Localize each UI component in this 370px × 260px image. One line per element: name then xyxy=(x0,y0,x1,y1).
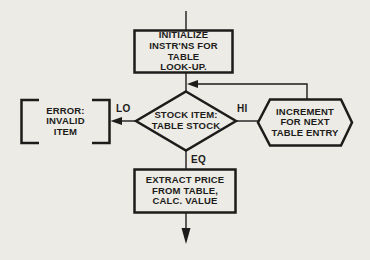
error-box-label: ERROR: INVALID ITEM xyxy=(21,99,110,144)
initialize-box-label: INITIALIZE INSTR'NS FOR TABLE LOOK-UP. xyxy=(134,30,233,73)
flowchart-figure: INITIALIZE INSTR'NS FOR TABLE LOOK-UP. S… xyxy=(0,0,370,260)
feedback-arrowhead-icon xyxy=(187,80,198,88)
increment-hexagon-label: INCREMENT FOR NEXT TABLE ENTRY xyxy=(258,99,352,146)
branch-label-lo: LO xyxy=(116,103,131,115)
lo-arrowhead-icon xyxy=(111,117,123,125)
branch-label-hi: HI xyxy=(237,103,248,115)
branch-label-eq: EQ xyxy=(191,154,206,166)
extract-box-label: EXTRACT PRICE FROM TABLE, CALC. VALUE xyxy=(134,169,236,213)
decision-diamond-label: STOCK ITEM: TABLE STOCK xyxy=(136,93,236,149)
exit-arrowhead-icon xyxy=(182,228,191,244)
